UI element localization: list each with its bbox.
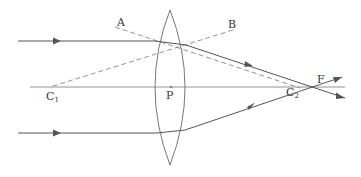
convex-lens — [155, 10, 185, 165]
arrow-icon — [53, 38, 61, 45]
arrow-icon — [336, 93, 345, 100]
label-c1: C1 — [46, 90, 59, 104]
label-f: F — [317, 73, 325, 86]
label-p: P — [166, 89, 174, 102]
refracted-ray-bottom-inside-lens — [157, 130, 185, 133]
emergent-ray-top — [186, 45, 345, 98]
optical-center-point — [170, 86, 172, 88]
normal-line-a — [115, 27, 300, 88]
label-c2: C2 — [286, 86, 299, 100]
arrow-icon — [245, 61, 254, 67]
label-a: A — [116, 16, 126, 29]
arrow-icon — [53, 130, 61, 137]
label-b: B — [228, 18, 236, 31]
arrow-icon — [333, 77, 342, 83]
normal-line-b — [50, 30, 233, 87]
convex-lens-ray-diagram: A B C1 P C2 F — [0, 0, 361, 177]
